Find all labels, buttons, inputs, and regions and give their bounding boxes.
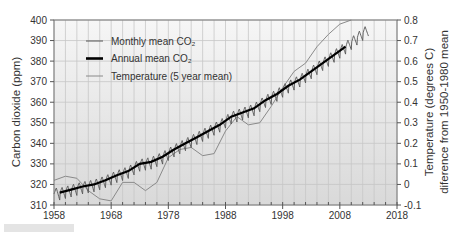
- legend-label: Monthly mean CO₂: [111, 36, 196, 47]
- y-tick-left: 350: [30, 117, 47, 128]
- y-tick-right: 0.2: [404, 138, 418, 149]
- x-tick: 2018: [386, 210, 409, 221]
- x-tick: 1988: [214, 210, 237, 221]
- y-tick-left: 310: [30, 200, 47, 211]
- y-tick-left: 320: [30, 179, 47, 190]
- y-tick-right: 0.4: [404, 97, 418, 108]
- y-tick-left: 340: [30, 138, 47, 149]
- x-tick: 1968: [100, 210, 123, 221]
- y-axis-title-left: Carbon dioxide (ppm): [10, 57, 22, 168]
- x-tick: 1958: [43, 210, 66, 221]
- y-tick-right: 0.6: [404, 56, 418, 67]
- y-tick-right: -0.1: [404, 200, 422, 211]
- y-tick-right: 0.1: [404, 158, 418, 169]
- legend-label: Annual mean CO₂: [111, 53, 192, 64]
- y-tick-right: 0.8: [404, 15, 418, 26]
- legend-label: Temperature (5 year mean): [111, 71, 232, 82]
- y-tick-right: 0.3: [404, 117, 418, 128]
- y-tick-right: 0.7: [404, 35, 418, 46]
- y-tick-left: 370: [30, 76, 47, 87]
- y-axis-title-right-line1: Temperature (degrees C): [423, 48, 435, 177]
- y-tick-right: 0.5: [404, 76, 418, 87]
- x-tick: 1978: [157, 210, 180, 221]
- x-tick: 2008: [329, 210, 352, 221]
- y-axis-title-right-line2: diference from 1950-1980 mean: [438, 30, 450, 194]
- y-tick-left: 400: [30, 15, 47, 26]
- y-tick-left: 330: [30, 158, 47, 169]
- y-tick-left: 360: [30, 97, 47, 108]
- y-tick-right: 0: [404, 179, 410, 190]
- y-axis-title-right: Temperature (degrees C) diference from 1…: [423, 30, 450, 194]
- y-tick-left: 390: [30, 35, 47, 46]
- caption-fragment: [4, 224, 74, 232]
- co2-temperature-chart: 310320330340350360370380390400-0.100.10.…: [0, 0, 461, 235]
- x-tick: 1998: [272, 210, 295, 221]
- y-tick-left: 380: [30, 56, 47, 67]
